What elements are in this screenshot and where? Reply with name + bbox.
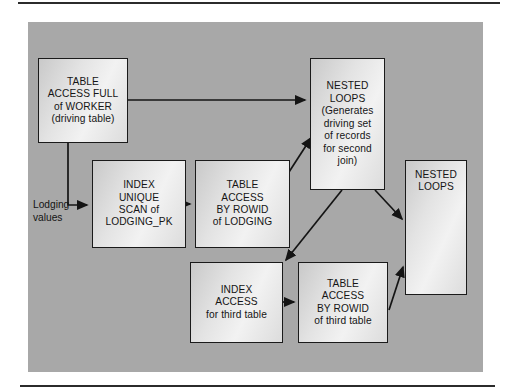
node-index-access-third-table: INDEXACCESSfor third table [190, 262, 283, 343]
node-text-line: of WORKER [41, 101, 125, 113]
node-text-line: for third table [193, 309, 280, 321]
node-text-line: driving set [313, 118, 382, 130]
node-text-line: NESTED [408, 169, 464, 181]
label-text-line: Lodging [33, 198, 69, 211]
node-index-unique-scan-lodging-pk: INDEXUNIQUESCAN ofLODGING_PK [92, 160, 186, 248]
node-text-line: for second [313, 143, 382, 155]
top-divider-rule [18, 2, 500, 4]
node-label: INDEXACCESSfor third table [193, 284, 280, 321]
node-text-line: SCAN of [95, 204, 183, 216]
node-text-line: LOOPS [313, 93, 382, 105]
node-text-line: ACCESS FULL [41, 88, 125, 100]
node-table-access-by-rowid-third-table: TABLEACCESSBY ROWIDof third table [298, 262, 388, 343]
node-text-line: (Generates [313, 105, 382, 117]
node-text-line: ACCESS [193, 296, 280, 308]
node-label: TABLEACCESS FULLof WORKER(driving table) [41, 76, 125, 126]
node-text-line: ACCESS [301, 290, 385, 302]
node-text-line: UNIQUE [95, 192, 183, 204]
node-text-line: BY ROWID [198, 204, 287, 216]
node-text-line: ACCESS [198, 192, 287, 204]
node-label: NESTEDLOOPS [408, 169, 464, 194]
node-text-line: TABLE [301, 278, 385, 290]
node-text-line: LOOPS [408, 181, 464, 193]
node-label: TABLEACCESSBY ROWIDof LODGING [198, 179, 287, 229]
node-text-line: NESTED [313, 80, 382, 92]
node-nested-loops-generates: NESTEDLOOPS(Generatesdriving setof recor… [310, 58, 385, 190]
node-text-line: of records [313, 130, 382, 142]
label-text-line: values [33, 211, 69, 224]
node-text-line: (driving table) [41, 113, 125, 125]
node-label: INDEXUNIQUESCAN ofLODGING_PK [95, 179, 183, 229]
node-table-access-by-rowid-lodging: TABLEACCESSBY ROWIDof LODGING [195, 160, 290, 248]
node-text-line: INDEX [193, 284, 280, 296]
node-nested-loops-final: NESTEDLOOPS [405, 160, 467, 295]
node-text-line: INDEX [95, 179, 183, 191]
node-text-line: LODGING_PK [95, 216, 183, 228]
bottom-divider-rule [20, 385, 495, 387]
node-label: NESTEDLOOPS(Generatesdriving setof recor… [313, 80, 382, 167]
node-text-line: BY ROWID [301, 303, 385, 315]
figure-canvas: TABLEACCESS FULLof WORKER(driving table)… [0, 0, 505, 392]
node-text-line: of third table [301, 315, 385, 327]
label-lodging-values: Lodgingvalues [33, 198, 69, 225]
node-label: TABLEACCESSBY ROWIDof third table [301, 278, 385, 328]
node-text-line: join) [313, 155, 382, 167]
node-table-access-full-worker: TABLEACCESS FULLof WORKER(driving table) [38, 58, 128, 143]
node-text-line: TABLE [41, 76, 125, 88]
node-text-line: TABLE [198, 179, 287, 191]
node-text-line: of LODGING [198, 216, 287, 228]
